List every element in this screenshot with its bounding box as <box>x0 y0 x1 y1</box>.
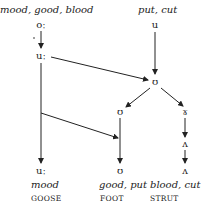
node-upsilon-final: ʊ <box>117 166 123 176</box>
node-upsilon-left: ʊ <box>117 107 123 117</box>
example-foot: good, put <box>99 180 147 190</box>
example-goose: mood <box>31 180 59 190</box>
node-o-long: oː <box>36 20 45 30</box>
lexical-set-foot: FOOT <box>100 195 124 203</box>
node-gamma-right: ɤ <box>182 107 188 117</box>
example-strut: blood, cut <box>150 180 200 190</box>
lexical-set-goose: GOOSE <box>31 195 61 203</box>
sound-change-diagram: mood, good, blood put, cut oː u uː ʊ ʊ ɤ… <box>0 0 202 209</box>
node-u-long-final: uː <box>36 166 46 176</box>
diagram-arrows <box>0 0 202 209</box>
lexical-set-strut: STRUT <box>150 195 179 203</box>
node-wedge: ʌ <box>182 139 188 149</box>
node-wedge-final: ʌ <box>182 166 188 176</box>
node-u-short-top: u <box>152 20 158 30</box>
top-label-left: mood, good, blood <box>0 5 94 15</box>
node-u-long: uː <box>36 51 46 61</box>
top-label-right: put, cut <box>138 5 177 15</box>
node-upsilon-mid: ʊ <box>152 77 158 87</box>
